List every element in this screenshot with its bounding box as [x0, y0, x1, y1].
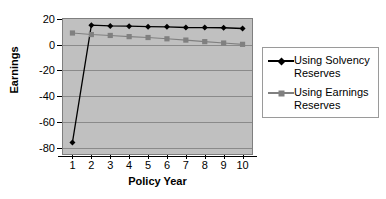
diamond-marker-icon — [202, 25, 208, 31]
diamond-marker-icon — [221, 25, 227, 31]
diamond-marker-icon — [240, 26, 246, 32]
chart-legend: Using Solvency Reserves Using Earnings R… — [262, 47, 379, 118]
diamond-marker-icon — [88, 22, 94, 28]
diamond-marker-icon — [126, 23, 132, 29]
y-tick-label: -80 — [25, 143, 55, 153]
legend-item-earnings[interactable]: Using Earnings Reserves — [268, 86, 369, 111]
legend-label: Using Solvency Reserves — [294, 54, 370, 79]
diamond-marker-icon — [268, 55, 294, 67]
square-marker-icon — [145, 35, 150, 40]
y-tick-label: -20 — [25, 65, 55, 75]
x-axis-line — [58, 156, 257, 157]
square-marker-icon — [183, 37, 188, 42]
plot-inner — [63, 19, 252, 154]
series-line — [72, 33, 242, 44]
square-marker-icon — [164, 36, 169, 41]
legend-label: Using Earnings Reserves — [294, 86, 369, 111]
y-tick-label: -60 — [25, 117, 55, 127]
diamond-marker-icon — [183, 24, 189, 30]
x-tick-label: 10 — [231, 159, 255, 171]
square-marker-icon — [89, 32, 94, 37]
legend-item-solvency[interactable]: Using Solvency Reserves — [268, 54, 370, 79]
y-axis-title: Earnings — [8, 30, 20, 110]
y-tick-label: -40 — [25, 91, 55, 101]
diamond-marker-icon — [69, 139, 75, 145]
x-axis-title: Policy Year — [62, 175, 253, 187]
y-tick-label: 20 — [25, 14, 55, 24]
square-marker-icon — [202, 39, 207, 44]
diamond-marker-icon — [164, 24, 170, 30]
chart-figure: Earnings 200-20-40-60-80 12345678910 Pol… — [0, 0, 386, 199]
series-layer — [63, 19, 252, 154]
square-marker-icon — [221, 40, 226, 45]
y-tick-label: 0 — [25, 40, 55, 50]
plot-area — [62, 18, 253, 155]
square-marker-icon — [70, 30, 75, 35]
square-marker-icon — [108, 33, 113, 38]
series-earnings-reserves — [70, 30, 245, 47]
series-solvency-reserves — [69, 22, 245, 145]
square-marker-icon — [268, 87, 294, 99]
square-marker-icon — [127, 34, 132, 39]
diamond-marker-icon — [145, 24, 151, 30]
diamond-marker-icon — [107, 23, 113, 29]
square-marker-icon — [240, 42, 245, 47]
